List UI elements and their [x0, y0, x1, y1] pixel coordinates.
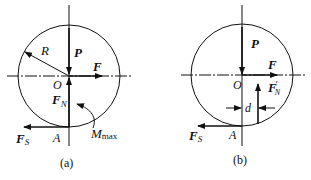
label-a: A: [228, 128, 237, 142]
svg-text:R: R: [40, 43, 49, 58]
free-body-diagrams: R P F O FN FS A Mmax (a) P F O F′N d FS …: [0, 0, 311, 180]
caption-b: (b): [233, 153, 247, 167]
label-fs-sub: S: [198, 134, 203, 144]
label-f: F: [92, 59, 102, 74]
label-fn-sub: N: [60, 99, 68, 109]
label-p: P: [251, 36, 260, 51]
figure-a: R P F O FN FS A Mmax (a): [7, 5, 133, 170]
svg-text:FN: FN: [51, 92, 68, 109]
label-p: P: [74, 45, 83, 60]
svg-text:FS: FS: [15, 131, 30, 147]
label-a: A: [52, 131, 61, 145]
caption-a: (a): [60, 156, 73, 170]
label-m-sub: max: [102, 131, 118, 141]
label-fn-sub: N: [274, 88, 281, 97]
label-o: O: [53, 78, 62, 92]
label-d: d: [245, 101, 252, 115]
label-o: O: [233, 78, 242, 92]
label-f: F: [267, 57, 277, 72]
label-fs: F: [15, 131, 25, 146]
label-fs-sub: S: [25, 137, 30, 147]
label-fs: F: [188, 128, 198, 143]
svg-text:Mmax: Mmax: [90, 126, 118, 141]
label-fn: F: [51, 92, 61, 107]
figure-b: P F O F′N d FS A (b): [181, 5, 306, 167]
svg-text:F′N: F′N: [267, 79, 281, 97]
label-r: R: [40, 43, 49, 58]
svg-text:FS: FS: [188, 128, 203, 144]
